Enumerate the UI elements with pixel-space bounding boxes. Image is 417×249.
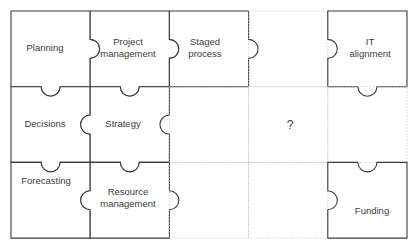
puzzle-piece-project-management[interactable] bbox=[90, 11, 179, 96]
puzzle-piece-empty-r1c4[interactable] bbox=[328, 87, 407, 163]
puzzle-piece-resource-management[interactable] bbox=[81, 162, 179, 238]
puzzle-piece-forecasting[interactable] bbox=[11, 162, 90, 238]
puzzle-piece-decisions[interactable] bbox=[11, 87, 90, 172]
puzzle-piece-strategy[interactable] bbox=[81, 87, 170, 172]
piece-label-question-cell: ? bbox=[264, 118, 316, 132]
puzzle-piece-empty-r2c2[interactable] bbox=[169, 162, 248, 238]
puzzle-diagram-canvas: PlanningProject managementStaged process… bbox=[0, 0, 417, 249]
puzzle-piece-staged-process[interactable] bbox=[169, 11, 258, 87]
puzzle-piece-it-alignment[interactable] bbox=[328, 11, 407, 96]
puzzle-graphic bbox=[0, 0, 417, 249]
puzzle-piece-empty-r0c3[interactable] bbox=[249, 11, 328, 87]
puzzle-piece-planning[interactable] bbox=[11, 11, 100, 96]
puzzle-piece-empty-r2c3[interactable] bbox=[249, 162, 328, 238]
puzzle-piece-empty-r1c2[interactable] bbox=[169, 87, 248, 163]
puzzle-piece-funding[interactable] bbox=[328, 162, 407, 238]
